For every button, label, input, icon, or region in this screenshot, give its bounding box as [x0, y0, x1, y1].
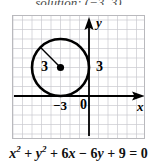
eq-operator: = [129, 146, 137, 161]
radius-label-inner: 3 [41, 60, 48, 74]
equation-caption: x2 + y2 + 6x − 6y + 9 = 0 [0, 144, 157, 162]
coordinate-plane [12, 15, 145, 139]
eq-operator: + [50, 146, 58, 161]
eq-number: 0 [141, 146, 148, 161]
circle-graph-figure: solution: (−3, 3) 3 3 −3 0 y x x2 + y2 +… [0, 0, 157, 165]
x-axis-label: x [137, 100, 144, 113]
eq-var: x [69, 146, 76, 161]
eq-number: 9 [119, 146, 126, 161]
eq-exponent: 2 [42, 144, 47, 154]
eq-var: y [97, 146, 103, 161]
circle-shape-layer [13, 16, 145, 139]
y-axis-label: y [96, 16, 102, 29]
x-tick-label-neg3: −3 [53, 99, 67, 112]
eq-operator: + [107, 146, 115, 161]
origin-label: 0 [80, 98, 87, 112]
cropped-top-text: solution: (−3, 3) [0, 0, 157, 5]
eq-var: y2 [36, 146, 47, 161]
center-point-marker [57, 64, 64, 71]
radius-label-outer: 3 [96, 60, 103, 74]
eq-var: x2 [9, 146, 21, 161]
eq-operator: + [24, 146, 32, 161]
eq-number: 6 [62, 146, 69, 161]
eq-operator: − [79, 146, 87, 161]
eq-exponent: 2 [16, 144, 21, 154]
